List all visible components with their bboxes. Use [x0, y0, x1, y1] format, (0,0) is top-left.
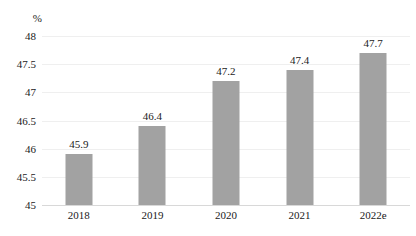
bar[interactable] [65, 154, 92, 205]
y-axis-tick-label: 47 [0, 87, 36, 98]
bar-slot: 46.4 [116, 36, 190, 205]
x-axis-tick-label: 2022e [360, 209, 387, 221]
x-axis-tick-label: 2021 [289, 209, 311, 221]
y-axis-tick-label: 46 [0, 144, 36, 155]
y-axis-tick-label: 46.5 [0, 116, 36, 127]
y-axis-unit-label: % [20, 13, 42, 24]
bar-value-label: 45.9 [69, 139, 88, 150]
bar[interactable] [212, 81, 239, 205]
bar-slot: 47.2 [189, 36, 263, 205]
bar-slot: 47.7 [336, 36, 410, 205]
x-axis-tick-label: 2020 [215, 209, 237, 221]
bar-value-label: 47.7 [364, 38, 383, 49]
bar[interactable] [286, 70, 313, 205]
bar-slot: 45.9 [42, 36, 116, 205]
x-axis-tick-label: 2019 [141, 209, 163, 221]
y-axis-tick-label: 47.5 [0, 59, 36, 70]
bar-slot: 47.4 [263, 36, 337, 205]
bars-group: 45.946.447.247.447.7 [42, 36, 410, 205]
y-axis-tick-label: 45.5 [0, 172, 36, 183]
bar-value-label: 47.2 [216, 66, 235, 77]
x-axis-tick-labels: 20182019202020212022e [42, 209, 410, 229]
axis-baseline [42, 205, 410, 206]
bar[interactable] [139, 126, 166, 205]
bar-value-label: 46.4 [143, 111, 162, 122]
y-axis-tick-label: 48 [0, 31, 36, 42]
y-axis-tick-label: 45 [0, 200, 36, 211]
x-axis-tick-label: 2018 [68, 209, 90, 221]
bar[interactable] [360, 53, 387, 205]
bar-chart: % 4545.54646.54747.548 45.946.447.247.44… [0, 0, 416, 236]
bar-value-label: 47.4 [290, 55, 309, 66]
